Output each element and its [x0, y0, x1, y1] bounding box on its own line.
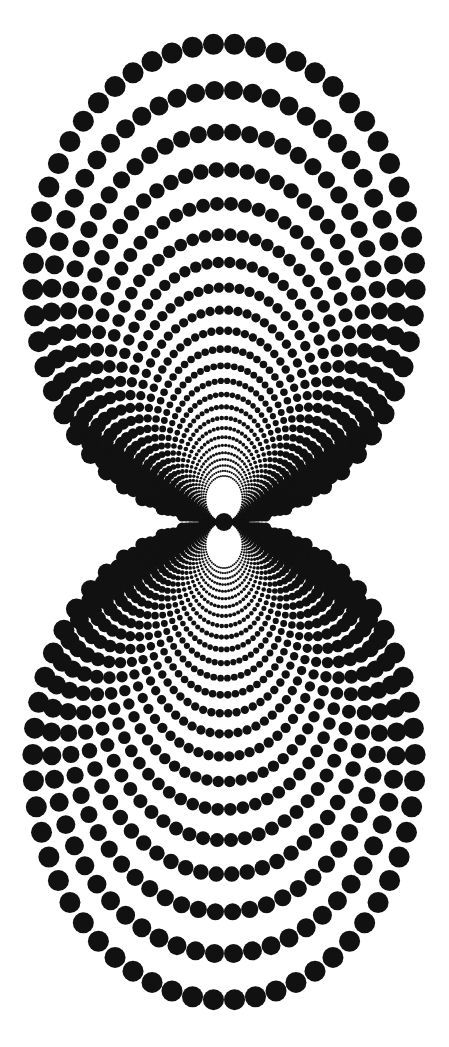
dot — [200, 456, 203, 459]
dot — [256, 557, 260, 561]
dot — [259, 560, 263, 564]
dot — [138, 655, 147, 664]
dot — [206, 473, 208, 475]
dot — [173, 131, 190, 148]
dot — [241, 494, 243, 496]
dot — [188, 561, 192, 565]
dot — [157, 397, 165, 405]
dot — [87, 761, 102, 776]
dot — [216, 709, 224, 717]
dot — [224, 416, 229, 421]
dot — [197, 639, 203, 645]
dot — [238, 199, 252, 213]
dot — [175, 631, 181, 637]
dot — [249, 333, 257, 341]
dot — [164, 656, 172, 664]
dot — [208, 448, 211, 451]
dot — [295, 404, 303, 412]
dot — [202, 642, 208, 648]
dot — [56, 815, 75, 834]
dot — [227, 458, 230, 461]
dot — [216, 613, 220, 617]
dot — [196, 463, 199, 466]
dot — [200, 477, 203, 480]
dot — [203, 989, 224, 1010]
dot — [300, 341, 310, 351]
dot — [221, 597, 224, 600]
dot — [255, 575, 259, 579]
dot — [142, 51, 163, 72]
dot — [188, 484, 192, 488]
dot — [188, 631, 194, 637]
dot — [87, 267, 102, 282]
dot — [255, 449, 259, 453]
dot — [212, 563, 214, 565]
dot — [241, 496, 243, 498]
dot — [320, 219, 335, 234]
dot — [22, 744, 43, 765]
dot — [266, 670, 274, 678]
dot — [205, 546, 207, 548]
dot — [212, 516, 214, 518]
dot — [322, 643, 333, 654]
dot — [77, 666, 92, 681]
dot — [231, 570, 233, 572]
dot — [304, 403, 313, 412]
dot — [200, 496, 202, 498]
dot — [147, 393, 155, 401]
dot — [224, 567, 226, 569]
dot — [192, 483, 195, 486]
dot — [246, 469, 249, 472]
dot — [176, 569, 181, 574]
dot — [197, 602, 201, 606]
dot — [238, 511, 240, 513]
dot — [164, 380, 172, 388]
dot — [197, 591, 201, 595]
dot — [149, 845, 164, 860]
dot — [379, 793, 398, 812]
dot — [213, 473, 215, 475]
dot — [333, 376, 346, 389]
dot — [263, 463, 268, 468]
dot — [226, 465, 228, 467]
dot — [182, 37, 203, 58]
dot — [302, 757, 315, 770]
dot — [196, 578, 199, 581]
dot — [245, 545, 247, 547]
dot — [189, 647, 195, 653]
dot — [220, 426, 224, 430]
dot — [263, 343, 271, 351]
dot — [293, 393, 301, 401]
dot — [241, 468, 244, 471]
dot — [209, 476, 211, 478]
dot — [165, 435, 171, 441]
dot — [165, 731, 175, 741]
dot — [206, 568, 208, 570]
dot — [371, 703, 388, 720]
dot — [255, 616, 260, 621]
dot — [235, 644, 241, 650]
dot — [276, 380, 284, 388]
dot — [227, 589, 230, 592]
dot — [205, 496, 207, 498]
dot — [233, 518, 235, 520]
dot — [333, 655, 346, 668]
dot — [90, 343, 104, 357]
dot — [216, 565, 218, 567]
dot — [203, 493, 205, 495]
dot — [163, 628, 170, 635]
dot — [185, 661, 192, 668]
dot — [239, 480, 241, 482]
dot — [50, 793, 69, 812]
dot — [224, 866, 239, 881]
dot — [145, 404, 153, 412]
dot — [266, 43, 287, 64]
dot — [263, 582, 268, 587]
dot — [237, 482, 239, 484]
dot — [170, 457, 176, 463]
dot — [226, 470, 228, 472]
dot — [245, 493, 247, 495]
dot — [289, 434, 297, 442]
dot — [241, 581, 244, 584]
dot — [219, 624, 224, 629]
